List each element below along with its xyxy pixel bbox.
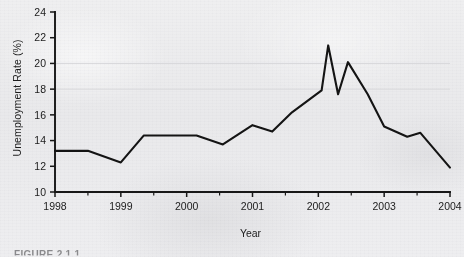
y-axis-tick-label: 16 bbox=[34, 109, 46, 121]
x-axis-tick-label: 2001 bbox=[241, 200, 265, 212]
x-axis-tick-label: 2004 bbox=[438, 200, 462, 212]
x-axis-tick-label: 2003 bbox=[372, 200, 396, 212]
x-axis-tick-label: 2000 bbox=[175, 200, 199, 212]
y-axis-tick-label: 20 bbox=[34, 57, 46, 69]
x-axis-tick-label: 1999 bbox=[109, 200, 133, 212]
figure-container: 1012141618202224199819992000200120022003… bbox=[0, 0, 464, 257]
y-axis-tick-label: 10 bbox=[34, 186, 46, 198]
y-axis-tick-label: 24 bbox=[34, 6, 46, 18]
y-axis-title: Unemployment Rate (%) bbox=[11, 23, 23, 173]
x-axis-tick-label: 1998 bbox=[43, 200, 67, 212]
unemployment-rate-line-chart: 1012141618202224199819992000200120022003… bbox=[0, 0, 464, 257]
x-axis-title: Year bbox=[240, 227, 262, 239]
x-axis-tick-label: 2002 bbox=[307, 200, 331, 212]
axis-spine bbox=[55, 12, 450, 192]
y-axis-tick-label: 12 bbox=[34, 160, 46, 172]
y-axis-tick-label: 18 bbox=[34, 83, 46, 95]
y-axis-tick-label: 22 bbox=[34, 31, 46, 43]
y-axis-tick-label: 14 bbox=[34, 134, 46, 146]
